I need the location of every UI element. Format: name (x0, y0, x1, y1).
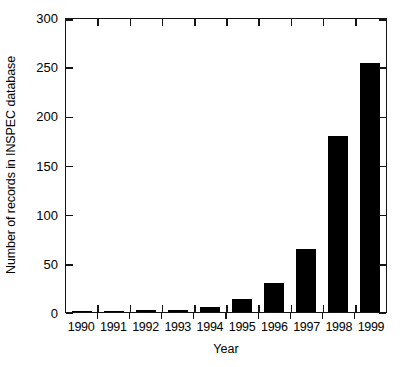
y-axis-title: Number of records in INSPEC database (0, 0, 22, 330)
bar-slot (162, 19, 194, 312)
x-axis-outer-tick (258, 313, 259, 319)
y-axis-tick-mark (379, 117, 386, 119)
x-axis-outer-tick (322, 313, 323, 319)
x-axis-tick-label: 1998 (323, 320, 355, 340)
x-axis-tick-mark (130, 305, 132, 312)
y-axis-tick-mark (379, 264, 386, 266)
y-axis-tick-label: 200 (36, 109, 58, 124)
y-axis-tick-mark (379, 166, 386, 168)
bar-1992[interactable] (136, 310, 156, 312)
x-axis-title: Year (65, 342, 387, 356)
bar-1995[interactable] (232, 299, 252, 312)
bar-chart-figure: Number of records in INSPEC database 050… (0, 0, 420, 367)
bar-slot (290, 19, 322, 312)
bar-slot (98, 19, 130, 312)
y-axis-tick-mark (66, 19, 73, 21)
bar-1993[interactable] (168, 310, 188, 312)
x-axis-tick-mark (162, 19, 164, 26)
x-axis-outer-tick (97, 313, 98, 319)
bar-1998[interactable] (328, 136, 348, 312)
x-axis-tick-label: 1995 (226, 320, 258, 340)
x-axis-outer-tick (354, 313, 355, 319)
bar-1997[interactable] (296, 249, 316, 312)
x-axis-tick-mark (323, 305, 325, 312)
y-axis-tick-label: 250 (36, 60, 58, 75)
y-axis-tick-mark (66, 215, 73, 217)
bar-1990[interactable] (72, 311, 92, 313)
bar-series (66, 19, 386, 312)
x-axis-tick-mark (355, 19, 357, 26)
x-axis-tick-mark (226, 19, 228, 26)
x-axis-tick-mark (130, 19, 132, 26)
x-axis-tick-mark (194, 19, 196, 26)
x-axis-outer-tick (290, 313, 291, 319)
bar-slot (322, 19, 354, 312)
y-axis-tick-labels: 050100150200250300 (22, 0, 58, 367)
bar-slot (226, 19, 258, 312)
y-axis-tick-mark (379, 67, 386, 69)
y-axis-tick-label: 150 (36, 158, 58, 173)
plot-area (65, 18, 387, 313)
x-axis-tick-mark (323, 19, 325, 26)
bar-1991[interactable] (104, 311, 124, 313)
x-axis-tick-label: 1990 (65, 320, 97, 340)
x-axis-tick-mark (162, 305, 164, 312)
x-axis-tick-labels: 1990199119921993199419951996199719981999 (65, 320, 387, 340)
bar-1994[interactable] (200, 307, 220, 312)
x-axis-tick-label: 1993 (162, 320, 194, 340)
x-axis-tick-mark (291, 305, 293, 312)
y-axis-tick-mark (66, 67, 73, 69)
x-axis-tick-mark (291, 19, 293, 26)
x-axis-tick-label: 1992 (129, 320, 161, 340)
bar-1996[interactable] (264, 283, 284, 312)
x-axis-outer-tick (129, 313, 130, 319)
x-axis-tick-mark (194, 305, 196, 312)
x-axis-tick-mark (226, 305, 228, 312)
y-axis-tick-mark (66, 166, 73, 168)
x-axis-outer-tick (161, 313, 162, 319)
x-axis-tick-mark (258, 19, 260, 26)
y-axis-tick-mark (379, 215, 386, 217)
x-axis-tick-label: 1996 (258, 320, 290, 340)
x-axis-tick-mark (97, 305, 99, 312)
bar-slot (258, 19, 290, 312)
y-axis-tick-mark (66, 117, 73, 119)
x-axis-tick-mark (258, 305, 260, 312)
x-axis-tick-mark (97, 19, 99, 26)
x-axis-outer-tick (225, 313, 226, 319)
y-axis-tick-label: 50 (44, 256, 58, 271)
y-axis-tick-label: 300 (36, 11, 58, 26)
y-axis-tick-label: 100 (36, 207, 58, 222)
x-axis-tick-label: 1997 (290, 320, 322, 340)
x-axis-outer-tick (193, 313, 194, 319)
x-axis-tick-label: 1999 (355, 320, 387, 340)
x-axis-outer-ticks (65, 313, 387, 320)
x-axis-tick-mark (355, 305, 357, 312)
bar-1999[interactable] (360, 63, 380, 312)
x-axis-tick-label: 1991 (97, 320, 129, 340)
bar-slot (130, 19, 162, 312)
y-axis-tick-mark (66, 264, 73, 266)
y-axis-tick-mark (379, 19, 386, 21)
y-axis-tick-label: 0 (51, 306, 58, 321)
bar-slot (194, 19, 226, 312)
x-axis-tick-label: 1994 (194, 320, 226, 340)
